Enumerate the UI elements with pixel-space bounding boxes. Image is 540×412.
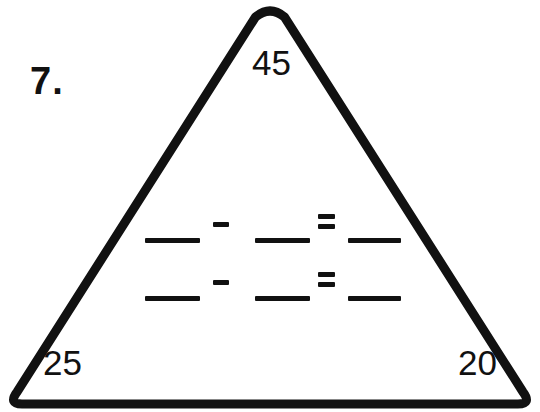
equals-sign-icon (318, 272, 335, 287)
minus-sign-icon (213, 222, 229, 227)
worksheet-problem-page: 7. 45 25 20 (0, 0, 540, 412)
equation-area (140, 205, 410, 315)
answer-blank-difference[interactable] (348, 238, 401, 243)
answer-blank-difference[interactable] (348, 296, 401, 301)
triangle-vertex-bottom-left-value: 25 (43, 345, 82, 380)
answer-blank-minuend[interactable] (145, 296, 200, 301)
answer-blank-minuend[interactable] (145, 238, 200, 243)
equation-row (140, 205, 410, 251)
triangle-vertex-top-value: 45 (252, 45, 291, 80)
equals-sign-icon (318, 214, 335, 229)
minus-sign-icon (213, 280, 229, 285)
answer-blank-subtrahend[interactable] (255, 238, 310, 243)
triangle-vertex-bottom-right-value: 20 (458, 345, 497, 380)
equation-row (140, 263, 410, 309)
answer-blank-subtrahend[interactable] (255, 296, 310, 301)
